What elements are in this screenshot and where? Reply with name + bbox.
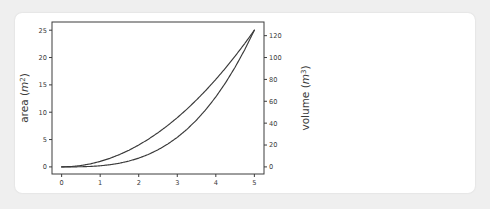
plot-frame — [52, 22, 264, 174]
x-tick-label: 4 — [214, 179, 218, 187]
chart-svg: 012345 0510152025 020406080100120 area (… — [15, 13, 475, 193]
y2-tick-label: 20 — [269, 141, 277, 149]
data-curves — [62, 30, 255, 167]
y-tick-label: 15 — [39, 81, 47, 89]
y2-axis-ticks: 020406080100120 — [264, 32, 282, 171]
y-tick-label: 5 — [43, 136, 47, 144]
y2-tick-label: 60 — [269, 98, 277, 106]
y2-tick-label: 40 — [269, 120, 277, 128]
x-tick-label: 3 — [175, 179, 179, 187]
x-tick-label: 0 — [60, 179, 64, 187]
y2-tick-label: 100 — [269, 54, 282, 62]
y2-axis-label: volume (m3) — [299, 65, 311, 130]
y-tick-label: 0 — [43, 163, 47, 171]
x-tick-label: 2 — [137, 179, 141, 187]
y-tick-label: 10 — [39, 109, 47, 117]
y-tick-label: 20 — [39, 54, 47, 62]
figure-container: 012345 0510152025 020406080100120 area (… — [15, 13, 475, 193]
y2-tick-label: 120 — [269, 32, 282, 40]
x-axis-ticks: 012345 — [60, 174, 257, 187]
y2-tick-label: 80 — [269, 76, 277, 84]
chart-card: 012345 0510152025 020406080100120 area (… — [15, 13, 475, 193]
curve-area — [62, 30, 255, 167]
curve-volume — [62, 30, 255, 167]
y-axis-label: area (m2) — [18, 73, 30, 123]
y-tick-label: 25 — [39, 27, 47, 35]
y-axis-ticks: 0510152025 — [39, 27, 52, 172]
y2-tick-label: 0 — [269, 163, 273, 171]
x-tick-label: 5 — [252, 179, 256, 187]
x-tick-label: 1 — [98, 179, 102, 187]
